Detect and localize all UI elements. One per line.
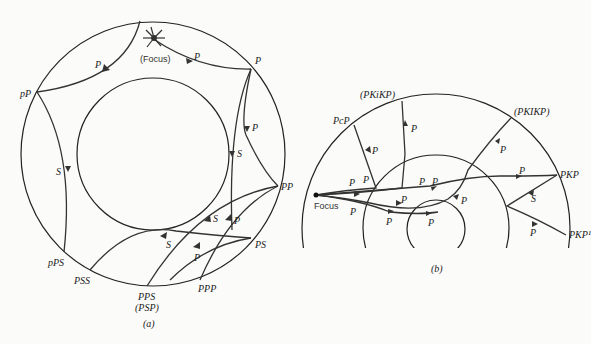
arrow-icon [193,242,200,249]
phase-label-pPS: pPS [47,257,64,268]
earth-core-a [77,78,229,230]
caption-b: (b) [431,263,443,275]
ray-PPP [200,186,278,280]
phase-label-PS: PS [254,239,266,250]
arrow-icon [388,209,394,214]
wave-label: S [166,239,171,250]
wave-label: P [410,123,417,134]
earth-mantle-b [302,94,570,344]
wave-label: P [193,51,200,62]
ray-S-left [37,92,66,252]
wave-label: P [349,206,356,217]
phase-label-P: P [254,55,261,66]
wave-label: P [94,59,101,70]
phase-label-PSS: PSS [73,275,90,286]
wave-label: P [348,177,355,188]
phase-label-PKP: PKP [559,169,579,180]
phase-label-PcP: PcP [332,115,350,126]
arrow-icon [365,146,371,153]
wave-label: P [251,122,258,133]
wave-label: S [56,166,61,177]
figure-a: (Focus) P P P pP P S S PP S P S P PS pPS… [19,21,293,330]
wave-label: S [213,213,218,224]
ray-pP [37,21,140,92]
arrow-icon [65,166,71,172]
arrow-icon [102,64,110,72]
wave-label: P [193,252,200,263]
wave-label: P [400,194,407,205]
phase-label-PKP-prime: PKP¹ [568,229,591,240]
focus-point-icon [314,193,319,198]
wave-label: S [237,148,242,159]
wave-label: P [362,174,369,185]
phase-label-PSP: (PSP) [135,302,160,314]
focus-label-a: (Focus) [140,54,171,64]
wave-label: S [531,193,536,204]
phase-label-PKIKP: (PKIKP) [514,106,550,118]
phase-label-PP: PP [280,181,293,192]
wave-label: P [499,144,506,155]
wave-label: P [418,176,425,187]
wave-label: P [371,145,378,156]
phase-label-pP: pP [19,88,31,99]
inner-core-b [407,200,465,258]
phase-label-PPP: PPP [197,283,216,294]
wave-label: P [431,176,438,187]
figure-b: PcP (PKiKP) (PKIKP) PKP PKP¹ P P P P P P… [302,89,591,344]
arrow-icon [160,232,167,239]
wave-label: P [233,215,240,226]
wave-label: P [385,216,392,227]
arrow-icon [225,214,232,221]
seismic-ray-diagram: (Focus) P P P pP P S S PP S P S P PS pPS… [0,0,591,344]
caption-a: (a) [143,318,155,330]
ray-PKiKP [316,101,405,195]
wave-label: P [518,165,525,176]
phase-label-PKiKP: (PKiKP) [360,89,396,101]
wave-label: P [427,217,434,228]
focus-label-b: Focus [314,201,339,211]
wave-label: P [529,227,536,238]
phase-label-PPS: PPS [137,291,155,302]
arrow-icon [229,151,235,157]
wave-label: P [460,195,467,206]
ray-PKS [507,175,566,235]
